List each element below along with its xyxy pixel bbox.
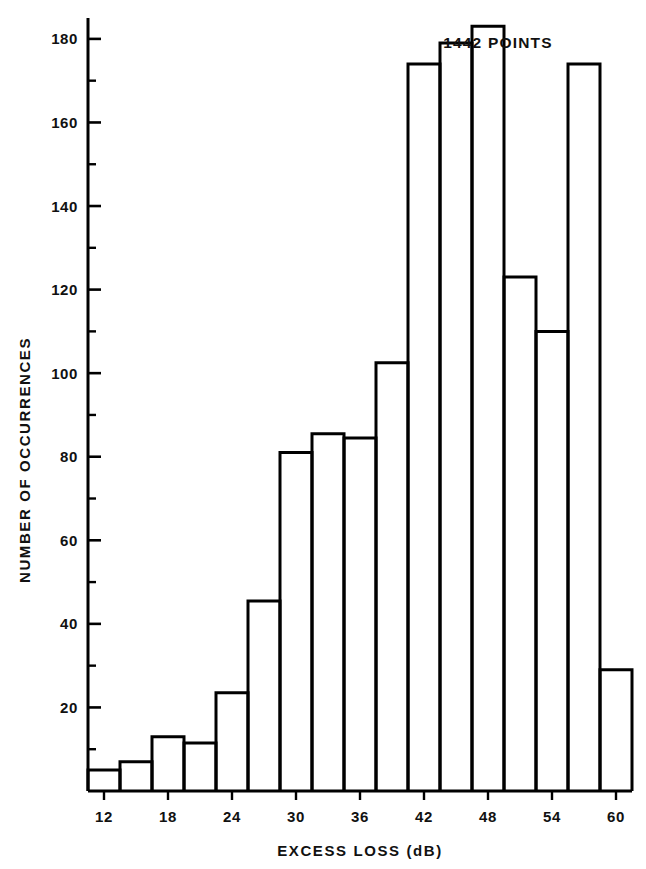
y-tick-label: 80 [60,448,78,465]
y-tick-label: 160 [51,114,78,131]
x-tick-label: 30 [287,808,305,825]
histogram-figure: 20406080100120140160180 1218243036424854… [0,0,646,869]
y-tick-label: 60 [60,532,78,549]
y-tick-label: 40 [60,615,78,632]
x-tick-label: 36 [351,808,369,825]
y-tick-label: 20 [60,699,78,716]
x-tick-label: 54 [543,808,561,825]
x-tick-label: 48 [479,808,497,825]
x-axis-title: EXCESS LOSS (dB) [277,842,443,859]
points-annotation: 1442 POINTS [443,34,553,51]
x-tick-label: 42 [415,808,433,825]
y-tick-label: 180 [51,30,78,47]
x-tick-label: 60 [607,808,625,825]
y-tick-label: 100 [51,365,78,382]
y-tick-label: 120 [51,281,78,298]
excess-loss-histogram: 20406080100120140160180 1218243036424854… [0,0,646,869]
y-axis-title: NUMBER OF OCCURRENCES [16,337,33,583]
x-tick-label: 12 [95,808,113,825]
y-tick-label: 140 [51,198,78,215]
x-tick-label: 18 [159,808,177,825]
x-tick-label: 24 [223,808,241,825]
